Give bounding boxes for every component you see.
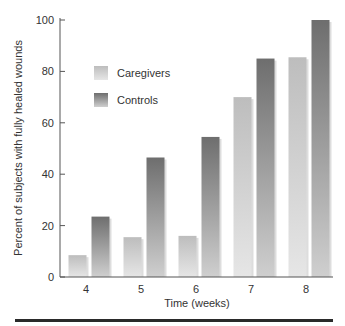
bar-caregivers-week-7 xyxy=(234,97,252,277)
y-tick-label: 60 xyxy=(42,117,54,129)
y-tick-label: 100 xyxy=(36,14,54,26)
legend-label-controls: Controls xyxy=(117,94,158,106)
x-tick-label: 6 xyxy=(193,283,199,295)
y-tick-label: 0 xyxy=(48,271,54,283)
legend-label-caregivers: Caregivers xyxy=(117,67,171,79)
bar-controls-week-4 xyxy=(92,217,110,277)
bars xyxy=(69,20,332,277)
x-axis: 45678 xyxy=(60,277,333,295)
bar-controls-week-5 xyxy=(147,157,165,277)
legend: CaregiversControls xyxy=(94,66,171,107)
x-tick-label: 7 xyxy=(248,283,254,295)
bar-caregivers-week-4 xyxy=(69,255,87,277)
legend-swatch-caregivers xyxy=(94,66,108,80)
y-axis: 020406080100 xyxy=(36,14,65,283)
bar-caregivers-week-6 xyxy=(179,236,197,277)
bar-caregivers-week-5 xyxy=(124,237,142,277)
y-tick-label: 20 xyxy=(42,220,54,232)
bar-controls-week-7 xyxy=(257,59,275,277)
x-tick-label: 5 xyxy=(138,283,144,295)
bar-controls-week-8 xyxy=(312,20,330,277)
y-axis-label: Percent of subjects with fully healed wo… xyxy=(12,40,24,256)
x-tick-label: 8 xyxy=(303,283,309,295)
y-tick-label: 40 xyxy=(42,168,54,180)
legend-swatch-controls xyxy=(94,93,108,107)
bar-controls-week-6 xyxy=(202,137,220,277)
x-axis-label: Time (weeks) xyxy=(164,297,230,309)
bar-caregivers-week-8 xyxy=(289,57,307,277)
bar-chart: 020406080100 45678 CaregiversControls Pe… xyxy=(0,0,345,326)
bottom-rule xyxy=(15,319,333,322)
y-tick-label: 80 xyxy=(42,65,54,77)
x-tick-label: 4 xyxy=(83,283,89,295)
